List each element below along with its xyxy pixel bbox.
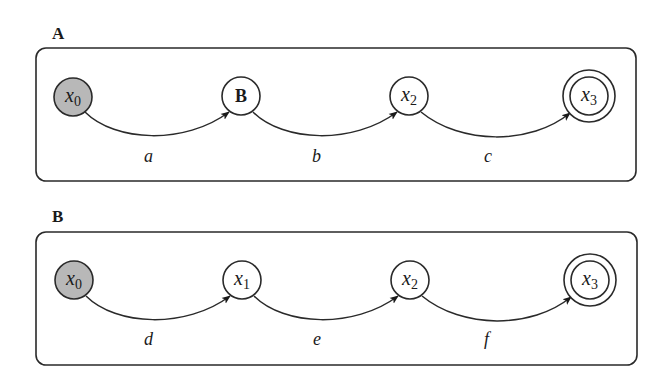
panel-b: B d e f x0 x1 x2 x3 [36, 207, 637, 365]
edge-label-e: e [313, 329, 321, 349]
state-node-x3-accepting: x3 [563, 70, 615, 122]
state-node-b: B [222, 77, 260, 115]
state-node-x2: x2 [390, 77, 428, 115]
edge-x1-to-x2 [254, 296, 398, 320]
state-node-x0: x0 [54, 78, 92, 116]
panel-box [36, 48, 636, 181]
state-node-x0: x0 [55, 261, 93, 299]
state-node-x2: x2 [391, 261, 429, 299]
edge-label-c: c [484, 146, 492, 166]
edge-x0-to-b [85, 112, 229, 136]
edge-label-f: f [484, 329, 492, 349]
edge-x2-to-x3 [422, 296, 571, 321]
panel-label: A [52, 24, 65, 43]
state-node-x1: x1 [223, 261, 261, 299]
panel-label: B [52, 207, 63, 226]
edge-label-a: a [144, 146, 153, 166]
edge-x2-to-x3 [421, 112, 570, 137]
panel-box [36, 232, 637, 365]
svg-text:B: B [235, 86, 247, 106]
edge-b-to-x2 [253, 112, 397, 136]
state-node-x3-accepting: x3 [564, 254, 616, 306]
edge-x0-to-x1 [86, 296, 230, 320]
edge-label-d: d [144, 329, 154, 349]
diagram-canvas: A a b c x0 B x2 x3 B [0, 0, 670, 384]
edge-label-b: b [312, 146, 321, 166]
panel-a: A a b c x0 B x2 x3 [36, 24, 636, 181]
